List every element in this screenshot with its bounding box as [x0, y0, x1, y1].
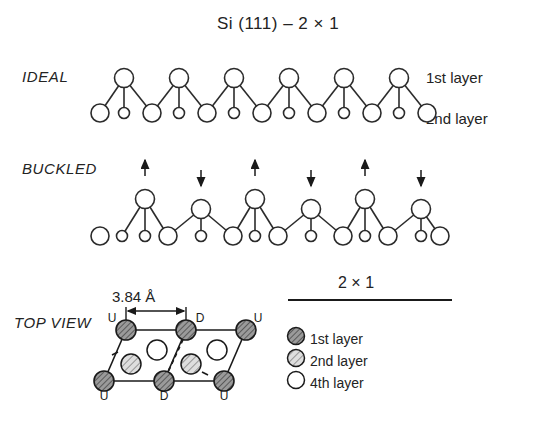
buckled-first-layer-atoms — [136, 190, 431, 219]
ud-label-top-u-left: U — [108, 311, 117, 325]
ud-label-bottom-d: D — [160, 389, 169, 403]
legend-box — [288, 300, 453, 389]
ud-label-top-u-right: U — [254, 311, 263, 325]
ideal-structure — [91, 69, 436, 123]
atom-down-1 — [192, 200, 211, 219]
atom-up-2 — [246, 190, 265, 209]
ud-label-top-d: D — [196, 311, 205, 325]
ideal-first-layer-atoms — [115, 69, 409, 88]
structure-diagram: U D U U D U — [0, 0, 556, 423]
legend-swatch-second-layer — [288, 350, 305, 367]
ud-label-bottom-u-left: U — [100, 389, 109, 403]
ud-label-bottom-u-right: U — [220, 389, 229, 403]
atom-down-3 — [412, 200, 431, 219]
atom-down-2 — [302, 200, 321, 219]
top-view-lattice — [94, 320, 256, 391]
figure-canvas: Si (111) – 2 × 1 IDEAL BUCKLED TOP VIEW … — [0, 0, 556, 423]
buckled-structure — [91, 160, 449, 245]
ideal-second-layer-atoms — [91, 104, 436, 122]
atom-up-3 — [356, 190, 375, 209]
legend-swatch-fourth-layer — [288, 372, 305, 389]
legend-swatch-first-layer — [288, 328, 305, 345]
buckling-arrows — [145, 160, 421, 186]
atom-up-1 — [136, 190, 155, 209]
dimension-arrow — [126, 307, 186, 326]
